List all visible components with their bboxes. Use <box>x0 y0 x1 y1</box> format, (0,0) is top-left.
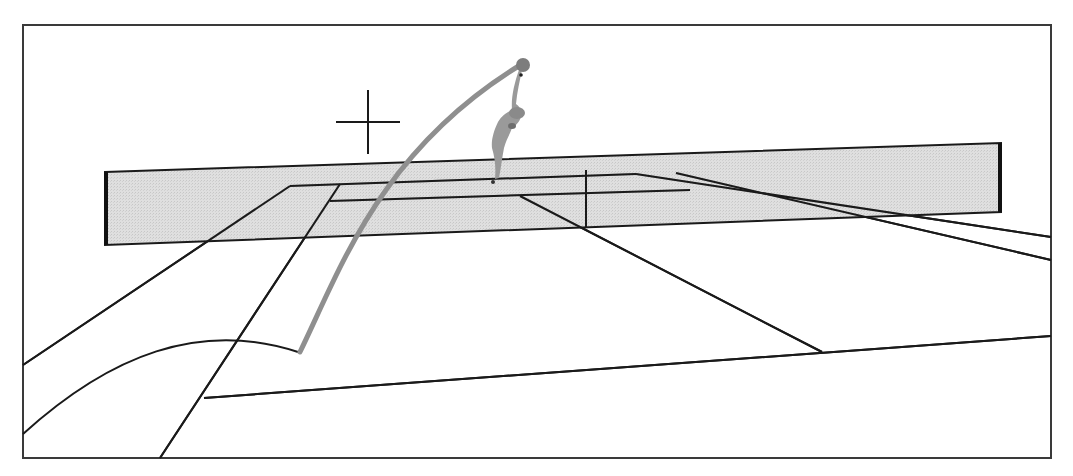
tennis-court-diagram <box>0 0 1073 476</box>
diagram-stage <box>0 0 1073 476</box>
service-arc <box>23 340 298 434</box>
near-baseline <box>204 336 1051 398</box>
crosshair-target-icon <box>336 90 400 154</box>
racket-tip-dot <box>519 73 523 77</box>
ball-icon <box>516 58 530 72</box>
service-arcs <box>23 340 298 434</box>
